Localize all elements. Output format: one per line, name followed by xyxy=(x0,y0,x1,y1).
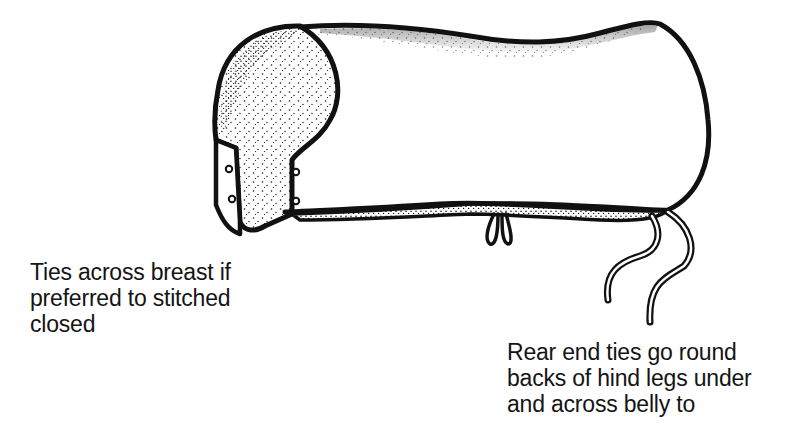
caption-line: Ties across breast if xyxy=(30,259,231,285)
fastener-dot xyxy=(229,196,235,202)
caption-line: Rear end ties go round xyxy=(507,339,752,365)
caption-line: preferred to stitched xyxy=(30,285,231,311)
fastener-dot xyxy=(293,169,299,175)
caption-breast-ties: Ties across breast if preferred to stitc… xyxy=(30,259,231,337)
caption-line: and across belly to xyxy=(507,391,752,417)
caption-line: closed xyxy=(30,311,231,337)
belly-tie-loop xyxy=(487,214,498,244)
caption-line: backs of hind legs under xyxy=(507,365,752,391)
fastener-dot xyxy=(226,166,232,172)
rear-tie-string-highlight xyxy=(607,216,657,300)
chest-flap xyxy=(216,140,240,234)
fastener-dot xyxy=(293,198,299,204)
caption-rear-ties: Rear end ties go round backs of hind leg… xyxy=(507,339,752,417)
belly-tie-loop xyxy=(502,214,511,244)
